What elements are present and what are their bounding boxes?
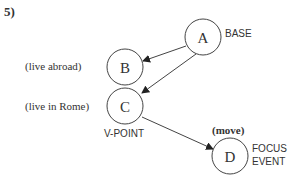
node-b-label: B [120, 60, 130, 76]
node-d-role-line1: FOCUS [252, 143, 287, 154]
edge-a-c [142, 54, 196, 93]
example-number: 5) [4, 4, 15, 19]
node-a: A [185, 19, 221, 55]
node-b: B [107, 49, 143, 85]
node-c: C [107, 88, 143, 124]
node-c-label: C [120, 99, 130, 115]
node-d-annotation: (move) [212, 124, 245, 137]
edge-c-d [142, 117, 213, 149]
node-d-role-line2: EVENT [252, 156, 285, 167]
node-a-label: A [198, 30, 209, 46]
node-c-role: V-POINT [104, 128, 144, 139]
node-d: D [212, 138, 248, 174]
diagram-canvas: 5) A BASE B (live abroad) C (live in Rom… [0, 0, 298, 184]
node-b-annotation: (live abroad) [25, 60, 82, 73]
node-a-role: BASE [225, 28, 252, 39]
edge-a-b [143, 46, 186, 61]
node-c-annotation: (live in Rome) [25, 100, 89, 113]
node-d-label: D [225, 149, 236, 165]
